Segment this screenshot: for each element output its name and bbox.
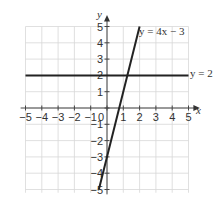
y-tick-label: −2 [90, 135, 103, 147]
x-tick-label: −4 [36, 111, 49, 123]
x-tick-label: −5 [19, 111, 32, 123]
x-tick-label: 2 [137, 111, 143, 123]
y-tick-label: 1 [97, 86, 103, 98]
x-tick-label: 5 [185, 111, 191, 123]
x-axis-label: x [195, 104, 201, 116]
x-tick-label: −2 [68, 111, 81, 123]
x-tick-label: 1 [120, 111, 126, 123]
y-tick-label: −5 [90, 184, 103, 196]
y-tick-label: 5 [97, 21, 103, 33]
line-label-4x-minus-3: y = 4x − 3 [139, 25, 185, 37]
y-tick-label: −3 [90, 151, 103, 163]
line-label-y-equals-2: y = 2 [190, 67, 213, 79]
y-axis-label: y [96, 8, 102, 20]
x-tick-label: −3 [52, 111, 65, 123]
x-tick-label: 3 [153, 111, 159, 123]
y-tick-label: 4 [97, 37, 103, 49]
y-tick-label: 3 [97, 53, 103, 65]
y-axis-arrow-icon [104, 15, 110, 22]
coordinate-plane: −5−4−3−2−101234554321−1−2−3−4−5 x y y = … [0, 0, 221, 210]
x-tick-label: 4 [169, 111, 175, 123]
axes [21, 15, 200, 194]
y-tick-label: −1 [90, 118, 103, 130]
